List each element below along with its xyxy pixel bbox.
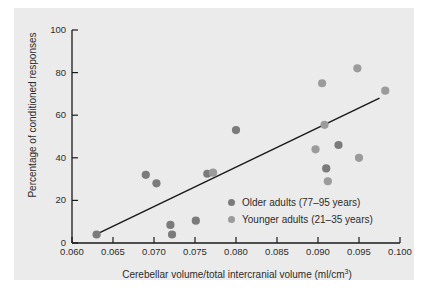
x-tick-label-0090: 0.090 — [298, 246, 338, 257]
x-tick-label-0070: 0.070 — [134, 246, 174, 257]
x-tick-label-0080: 0.080 — [216, 246, 256, 257]
y-tick-label-80: 80 — [40, 67, 66, 78]
x-axis-ticks — [72, 237, 400, 243]
x-tick-label-0075: 0.075 — [175, 246, 215, 257]
x-tick-label-0085: 0.085 — [257, 246, 297, 257]
data-point — [318, 79, 326, 87]
data-point — [168, 230, 176, 238]
legend-label-older-adults: Older adults (77–95 years) — [242, 197, 360, 208]
y-axis-title-wrapper: Percentage of conditioned responses — [22, 20, 36, 210]
data-point — [324, 177, 332, 185]
y-tick-label-100: 100 — [40, 24, 66, 35]
y-tick-label-20: 20 — [40, 194, 66, 205]
data-point — [320, 121, 328, 129]
x-tick-label-0100: 0.100 — [380, 246, 420, 257]
x-tick-label-0060: 0.060 — [52, 246, 92, 257]
data-point — [209, 169, 217, 177]
x-axis-title-tail: ) — [348, 269, 351, 280]
x-axis-title-wrapper: Cerebellar volume/total intercranial vol… — [72, 264, 402, 282]
data-point — [311, 145, 319, 153]
legend-label-younger-adults: Younger adults (21–35 years) — [242, 214, 373, 225]
data-point — [334, 141, 342, 149]
y-tick-label-60: 60 — [40, 109, 66, 120]
legend-marker-older-adults — [228, 199, 235, 206]
data-point — [381, 87, 389, 95]
legend-item-older-adults: Older adults (77–95 years) — [228, 194, 373, 211]
x-tick-label-0095: 0.095 — [339, 246, 379, 257]
data-point — [142, 171, 150, 179]
data-point — [93, 230, 101, 238]
y-axis-title: Percentage of conditioned responses — [27, 32, 38, 197]
data-point — [322, 164, 330, 172]
data-point — [232, 126, 240, 134]
legend-item-younger-adults: Younger adults (21–35 years) — [228, 211, 373, 228]
x-tick-label-0065: 0.065 — [93, 246, 133, 257]
data-point — [152, 179, 160, 187]
data-point — [192, 217, 200, 225]
y-axis-ticks — [72, 30, 78, 243]
legend-marker-younger-adults — [228, 216, 235, 223]
scatter-plot-figure: 0 20 40 60 80 100 0.060 0.065 0.070 0.07… — [0, 0, 428, 295]
data-point — [355, 154, 363, 162]
data-point — [166, 221, 174, 229]
x-axis-title-main: Cerebellar volume/total intercranial vol… — [122, 269, 344, 280]
x-axis-title: Cerebellar volume/total intercranial vol… — [122, 269, 352, 280]
data-point — [353, 64, 361, 72]
y-tick-label-40: 40 — [40, 152, 66, 163]
chart-legend: Older adults (77–95 years) Younger adult… — [228, 194, 373, 228]
